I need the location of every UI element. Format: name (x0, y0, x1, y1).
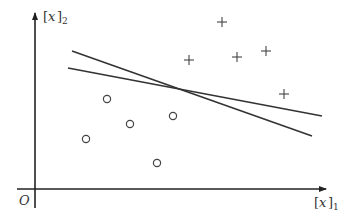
svg-text:2: 2 (62, 16, 68, 26)
svg-text:1: 1 (333, 202, 339, 212)
negative-points (82, 95, 176, 166)
separating-line (72, 51, 312, 136)
circle-marker-icon (126, 120, 133, 127)
plus-marker-icon (232, 52, 242, 62)
plus-marker-icon (184, 55, 194, 65)
circle-marker-icon (153, 159, 160, 166)
circle-marker-icon (103, 95, 110, 102)
x-axis-label: [ x ] 1 (314, 195, 339, 212)
plus-marker-icon (217, 17, 227, 27)
diagram-canvas: [ x ] 2 [ x ] 1 O (0, 0, 353, 219)
plus-marker-icon (279, 89, 289, 99)
svg-text:x: x (319, 195, 327, 210)
svg-text:x: x (48, 9, 56, 24)
origin-label: O (19, 193, 30, 208)
positive-points (184, 17, 289, 99)
circle-marker-icon (82, 135, 89, 142)
plus-marker-icon (261, 46, 271, 56)
y-axis-label: [ x ] 2 (43, 9, 68, 26)
circle-marker-icon (169, 112, 176, 119)
